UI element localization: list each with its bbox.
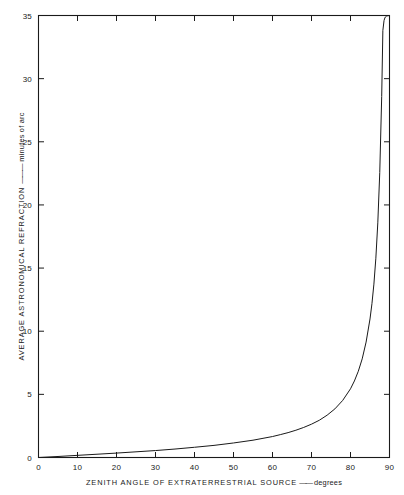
x-tick-label-20: 20	[112, 463, 121, 472]
x-tick-label-30: 30	[151, 463, 160, 472]
x-tick-label-0: 0	[36, 463, 41, 472]
y-tick-label-35: 35	[16, 11, 32, 20]
refraction-chart-figure: AVERAGE ASTRONOMICAL REFRACTION ——— minu…	[0, 0, 404, 495]
x-tick-label-40: 40	[190, 463, 199, 472]
x-tick-label-90: 90	[385, 463, 394, 472]
y-tick-label-10: 10	[16, 327, 32, 336]
axis-ticks	[39, 16, 390, 458]
refraction-curve	[39, 16, 390, 458]
x-tick-label-60: 60	[268, 463, 277, 472]
x-tick-label-80: 80	[346, 463, 355, 472]
y-tick-label-15: 15	[16, 264, 32, 273]
y-tick-label-20: 20	[16, 200, 32, 209]
y-tick-label-30: 30	[16, 74, 32, 83]
y-tick-label-5: 5	[16, 390, 32, 399]
y-tick-label-0: 0	[16, 453, 32, 462]
plot-area	[0, 0, 404, 495]
x-tick-label-10: 10	[73, 463, 82, 472]
plot-frame	[39, 16, 390, 458]
x-tick-label-70: 70	[307, 463, 316, 472]
x-tick-label-50: 50	[229, 463, 238, 472]
y-tick-label-25: 25	[16, 137, 32, 146]
